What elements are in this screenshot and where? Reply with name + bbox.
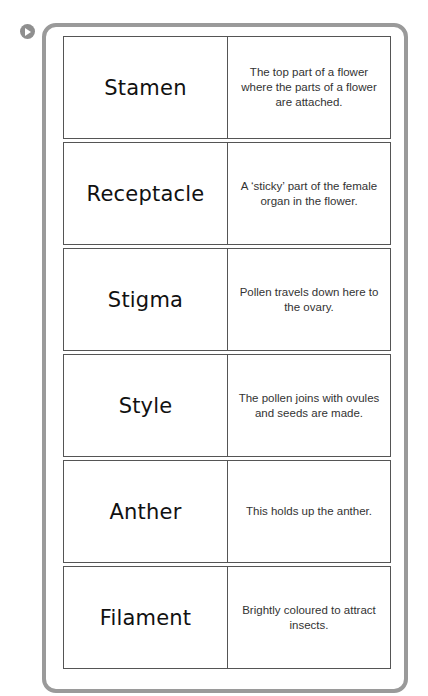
definition-cell: A ‘sticky’ part of the female organ in t… [228, 143, 390, 244]
table-row: Style The pollen joins with ovules and s… [63, 354, 391, 457]
term-cell: Stamen [64, 37, 228, 138]
term-cell: Style [64, 355, 228, 456]
definition-cell: This holds up the anther. [228, 461, 390, 562]
table-row: Stamen The top part of a flower where th… [63, 36, 391, 139]
definition-cell: The top part of a flower where the parts… [228, 37, 390, 138]
definition-cell: Pollen travels down here to the ovary. [228, 249, 390, 350]
term-cell: Stigma [64, 249, 228, 350]
table-row: Filament Brightly coloured to attract in… [63, 566, 391, 669]
table-row: Stigma Pollen travels down here to the o… [63, 248, 391, 351]
term-cell: Receptacle [64, 143, 228, 244]
definition-cell: The pollen joins with ovules and seeds a… [228, 355, 390, 456]
definition-cell: Brightly coloured to attract insects. [228, 567, 390, 668]
matching-table: Stamen The top part of a flower where th… [63, 36, 391, 672]
table-row: Receptacle A ‘sticky’ part of the female… [63, 142, 391, 245]
table-row: Anther This holds up the anther. [63, 460, 391, 563]
term-cell: Anther [64, 461, 228, 562]
term-cell: Filament [64, 567, 228, 668]
play-circle-icon [20, 24, 35, 39]
